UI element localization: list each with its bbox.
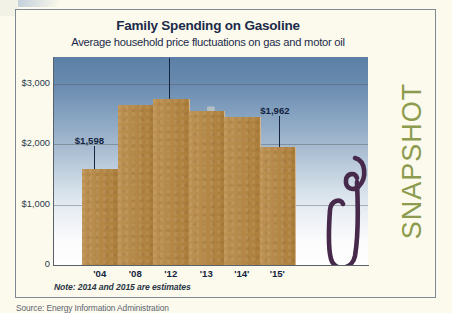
gas-pump-nozzle-icon [325,152,368,265]
bar [224,117,261,265]
bar [260,147,297,265]
y-axis-labels: 0$1,000$2,000$3,000 [16,10,50,299]
value-callout-label: $1,962 [260,105,289,116]
value-callout-label: $2,756 [150,57,179,58]
y-axis-tick-label: 0 [45,259,50,269]
bar [82,169,119,265]
callout-leader-line [94,146,95,169]
snapshot-badge: SNAPSHOT [395,57,429,265]
snapshot-badge-label: SNAPSHOT [397,83,428,240]
bar [189,111,226,265]
x-axis-tick-label: '08 [118,268,154,279]
snapshot-page: Family Spending on Gasoline Average hous… [0,0,452,313]
callout-leader-line [279,116,280,147]
x-axis-tick-label: '12 [153,268,189,279]
chart-subtitle: Average household price fluctuations on … [24,36,392,48]
gridline [53,84,368,85]
chart-plot-area: $ $1,598$2,756$1,962 [53,57,368,265]
x-axis-tick-label: '15' [260,268,296,279]
chart-title: Family Spending on Gasoline [34,18,382,33]
snapshot-card: Family Spending on Gasoline Average hous… [15,9,436,298]
x-axis-tick-label: '13 [189,268,225,279]
y-axis-tick-label: $2,000 [22,138,50,148]
x-axis-line [53,265,369,266]
bar [153,99,190,265]
y-axis-tick-label: $1,000 [22,199,50,209]
chart-source: Source: Energy Information Administratio… [16,303,169,313]
bar [118,105,155,265]
callout-leader-line [169,58,170,99]
y-axis-tick-label: $3,000 [22,78,50,88]
y-axis-line [53,57,54,266]
x-axis-tick-label: '04 [82,268,118,279]
x-axis-tick-label: '14' [224,268,260,279]
value-callout-label: $1,598 [75,135,104,146]
chart-note: Note: 2014 and 2015 are estimates [54,282,191,292]
